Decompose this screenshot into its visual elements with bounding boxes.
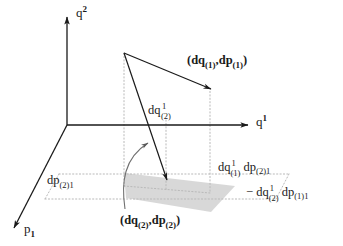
formula-l2-dq-upper: 1 <box>270 184 280 193</box>
dp21-lower-index: (2)1 <box>60 180 74 190</box>
q1-axis-exponent: 1 <box>263 113 268 123</box>
formula-l2-dq-lower: (2) <box>269 194 279 203</box>
formula-l1-dq-indices: 1(1) <box>231 160 241 178</box>
dq2-lower-index: (2) <box>161 112 171 121</box>
formula-minus-sign: − <box>246 185 253 199</box>
dp21-component-label: dp(2)1 <box>47 174 74 187</box>
vector-2-label: (dq(2),dp(2)) <box>120 214 180 227</box>
q2-axis-exponent: 2 <box>83 4 88 14</box>
symplectic-area-formula: dq1(1) dp(2)1 − dq1(2) dp(1)1 <box>218 159 308 202</box>
dq2-indices: 1(2) <box>161 103 171 121</box>
vector-2-dp-sub: (2) <box>166 220 177 230</box>
symplectic-area-diagram: q2 q1 p1 (dq(1),dp(1)) (dq(2),dp(2)) dq1… <box>0 0 343 246</box>
formula-l2-dq-indices: 1(2) <box>269 185 279 203</box>
dq2-upper-index: 1 <box>162 102 172 111</box>
formula-l2-dp-base: dp <box>282 185 295 199</box>
diagram-canvas <box>0 0 343 246</box>
formula-l2-dp-lower: (1)1 <box>294 191 308 201</box>
vector-2-dq-sub: (2) <box>138 220 149 230</box>
vector-1-dp: dp <box>219 53 233 67</box>
formula-l1-dp-base: dp <box>244 160 257 174</box>
vector-1-label: (dq(1),dp(1)) <box>187 54 247 67</box>
formula-l1-dq-base: dq <box>218 160 231 174</box>
vector-2-dq: dq <box>124 213 138 227</box>
vector-1-dq: dq <box>191 53 205 67</box>
vector-1-dp-sub: (1) <box>233 60 244 70</box>
formula-l2-dq-base: dq <box>256 185 269 199</box>
formula-l1-dq-upper: 1 <box>232 159 242 168</box>
vector-1-dq-sub: (1) <box>205 60 216 70</box>
dq2-base: dq <box>148 103 161 117</box>
formula-l1-dp-lower: (2)1 <box>256 166 270 176</box>
formula-l1-dq-lower: (1) <box>231 169 241 178</box>
dq2-component-label: dq1(2) <box>148 102 171 120</box>
q1-axis-label: q1 <box>256 115 267 128</box>
formula-line-1: dq1(1) dp(2)1 <box>218 159 308 177</box>
formula-line-2: − dq1(2) dp(1)1 <box>246 184 308 202</box>
q2-axis-label: q2 <box>76 6 87 19</box>
p1-axis-label: p1 <box>24 222 35 235</box>
vector-1-close-paren: ) <box>243 53 247 67</box>
vector-2-dp: dp <box>152 213 166 227</box>
p1-axis-index: 1 <box>31 229 36 239</box>
vector-2-close-paren: ) <box>176 213 180 227</box>
dp21-base: dp <box>47 173 60 187</box>
